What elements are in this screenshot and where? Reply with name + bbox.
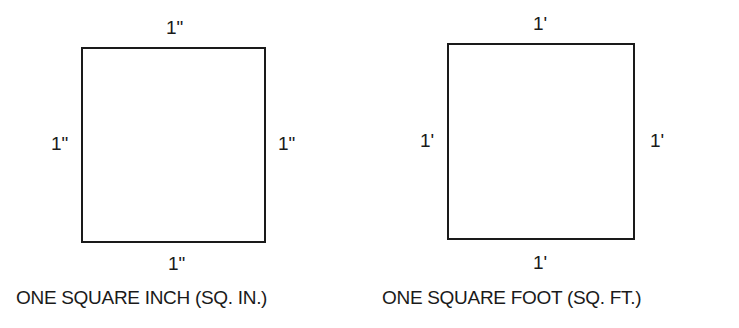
square-foot-caption: ONE SQUARE FOOT (SQ. FT.) (382, 288, 641, 307)
left-dimension-label: 1' (420, 131, 434, 150)
bottom-dimension-label: 1" (168, 254, 185, 273)
square-foot-shape (447, 43, 635, 240)
top-dimension-label: 1" (166, 18, 183, 37)
square-inch-figure: 1" 1" 1" 1" ONE SQUARE INCH (SQ. IN.) (0, 0, 370, 328)
right-dimension-label: 1" (278, 134, 295, 153)
right-dimension-label: 1' (650, 131, 664, 150)
square-inch-caption: ONE SQUARE INCH (SQ. IN.) (16, 288, 267, 307)
square-inch-shape (81, 47, 266, 243)
square-foot-figure: 1' 1' 1' 1' ONE SQUARE FOOT (SQ. FT.) (370, 0, 739, 328)
top-dimension-label: 1' (533, 14, 547, 33)
bottom-dimension-label: 1' (533, 253, 547, 272)
left-dimension-label: 1" (51, 134, 68, 153)
